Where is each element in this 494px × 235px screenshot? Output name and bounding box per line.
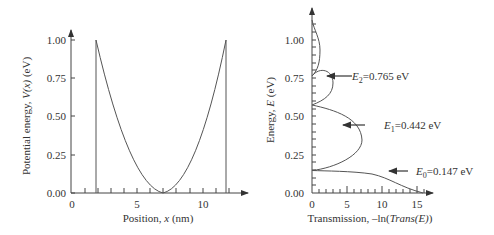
annotation-label: E2=0.765 eV [351,70,409,85]
annotation-label: E0=0.147 eV [415,165,473,180]
x-tick-label: 10 [377,198,389,210]
annotation-label: E1=0.442 eV [383,119,441,134]
y-tick-labels: 0.00 0.25 0.50 0.75 1.00 [47,34,67,199]
annotation-e2: E2=0.765 eV [327,70,409,85]
x-ticks [319,186,424,193]
y-tick-label: 0.50 [47,110,67,122]
y-tick-label: 0.75 [47,72,67,84]
y-axis-label: Energy, E (eV) [264,77,277,143]
y-ticks [71,40,75,193]
figure: 0.00 0.25 0.50 0.75 1.00 0 5 10 [0,0,494,235]
y-tick-label: 0.00 [285,187,305,199]
x-tick-label: 10 [198,198,210,210]
potential-chart: 0.00 0.25 0.50 0.75 1.00 0 5 10 [20,30,248,225]
x-tick-label: 5 [134,198,140,210]
y-tick-label: 1.00 [47,34,67,46]
potential-curve [96,40,226,193]
y-axis-label: Potential energy, V(x) (eV) [20,57,33,176]
x-tick-label: 5 [344,198,350,210]
x-tick-labels: 0 5 10 15 [309,198,423,210]
x-axis-label: Position, x (nm) [123,212,194,225]
y-tick-label: 1.00 [285,34,305,46]
x-axis-label: Transmission, –ln(Trans(E)) [308,212,433,225]
y-tick-label: 0.50 [285,110,305,122]
annotation-e0: E0=0.147 eV [389,165,473,180]
transmission-curve [312,20,423,193]
x-tick-label: 0 [69,198,75,210]
y-tick-labels: 0.00 0.25 0.50 0.75 1.00 [285,34,305,199]
y-tick-label: 0.00 [47,187,67,199]
x-tick-label: 15 [412,198,424,210]
x-tick-labels: 0 5 10 [69,198,209,210]
transmission-chart: 0.00 0.25 0.50 0.75 1.00 0 [264,8,473,225]
y-tick-label: 0.25 [47,149,67,161]
y-tick-label: 0.75 [285,72,305,84]
x-tick-label: 0 [309,198,315,210]
y-tick-label: 0.25 [285,149,305,161]
